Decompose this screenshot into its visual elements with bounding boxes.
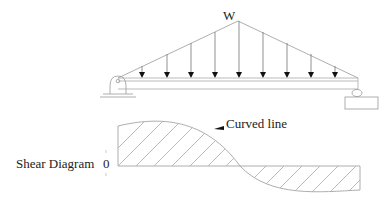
roller-support (345, 89, 378, 109)
beam-diagram (0, 0, 390, 203)
load-arrows (139, 21, 338, 78)
pin-support (100, 76, 136, 97)
load-label: W (223, 8, 235, 24)
shear-diagram-label: Shear Diagram (16, 156, 94, 172)
beam (118, 78, 358, 89)
pointer-arrow-icon (214, 126, 224, 130)
curved-line-annotation: Curved line (226, 116, 287, 132)
load-triangle (118, 21, 358, 78)
zero-axis-label: 0 (103, 156, 110, 172)
